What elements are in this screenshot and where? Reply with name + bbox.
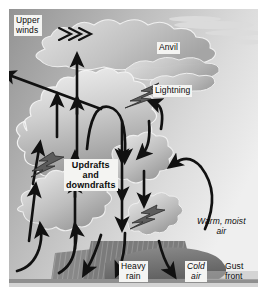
label-updrafts-downdrafts: Updrafts and downdrafts [64, 159, 118, 191]
label-upper-winds: Upper winds [14, 15, 42, 36]
diagram-canvas: Upper winds Anvil Lightning Updrafts and… [9, 9, 258, 287]
diagram-artwork [9, 9, 258, 287]
label-cold-air: Cold air [185, 261, 207, 282]
label-warm-moist-air: Warm, moist air [195, 216, 248, 237]
thunderstorm-diagram: Upper winds Anvil Lightning Updrafts and… [0, 0, 267, 297]
label-anvil: Anvil [157, 42, 180, 54]
label-heavy-rain: Heavy rain [119, 261, 148, 282]
label-gust-front: Gust front [223, 261, 245, 282]
label-lightning: Lightning [153, 85, 192, 97]
